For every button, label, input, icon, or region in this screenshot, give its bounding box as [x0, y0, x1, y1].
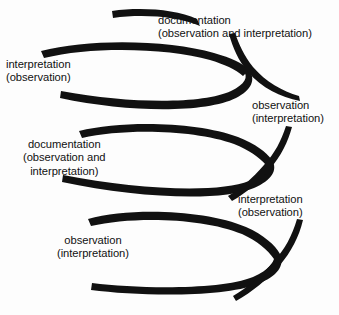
label-interpretation-left: interpretation (observation) [6, 58, 71, 85]
label-line: (observation) [6, 71, 71, 84]
hermeneutic-spiral-diagram: documentation (observation and interpret… [0, 0, 339, 315]
label-line: (observation) [238, 206, 303, 219]
label-line: (observation and [23, 151, 106, 164]
label-line: observation [57, 234, 129, 247]
label-documentation-middle: documentation (observation and interpret… [23, 138, 106, 178]
label-line: (observation and interpretation) [158, 27, 312, 40]
label-line: interpretation [6, 58, 71, 71]
spiral-loop1-upper [41, 42, 249, 76]
label-observation-right: observation (interpretation) [252, 99, 324, 126]
label-line: interpretation [238, 193, 303, 206]
label-documentation-top: documentation (observation and interpret… [158, 14, 312, 41]
spiral-loop1-lower [60, 70, 252, 109]
label-observation-bottom: observation (interpretation) [57, 234, 129, 261]
label-line: interpretation) [23, 165, 106, 178]
label-interpretation-right: interpretation (observation) [238, 193, 303, 220]
label-line: documentation [158, 14, 312, 27]
label-line: (interpretation) [57, 247, 129, 260]
label-line: documentation [23, 138, 106, 151]
label-line: (interpretation) [252, 112, 324, 125]
label-line: observation [252, 99, 324, 112]
spiral-loop2-upper [79, 124, 272, 165]
